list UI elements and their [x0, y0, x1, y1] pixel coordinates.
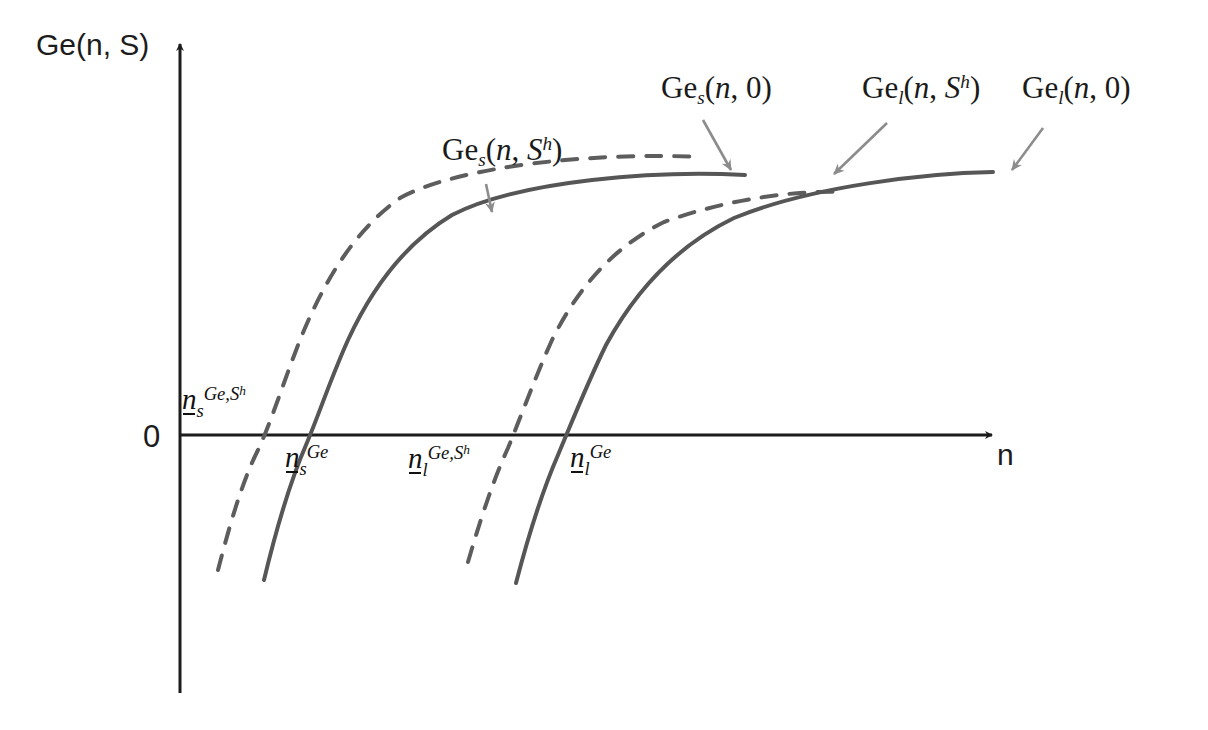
- threshold-label-n-s-ge-sh-sup-sup: h: [239, 383, 246, 398]
- threshold-label-n-l-ge-sh-sup-sup: h: [463, 442, 470, 457]
- curve-label-ge-s-sh-base: Ge: [442, 132, 478, 167]
- curve-label-ge-l-sh-open: (: [904, 70, 914, 105]
- threshold-label-n-s-ge: nsGe: [285, 443, 328, 478]
- arrow-ge-l-sh: [834, 123, 887, 174]
- curve-label-ge-l-sh-close: ): [970, 70, 980, 105]
- curve-label-ge-l-sh-arg2: S: [945, 70, 961, 105]
- curve-label-ge-s-sh-arg2-sup: h: [542, 133, 552, 154]
- curve-ge-l-0: [516, 172, 993, 583]
- figure-canvas: Ge(n, S) n 0 Ges(n, Sh) Ges(n, 0) Gel(n,…: [0, 0, 1208, 730]
- curve-label-ge-s-0-sub: s: [697, 87, 704, 108]
- threshold-label-n-l-ge-sh-base: n: [408, 444, 423, 473]
- threshold-label-n-s-ge-base: n: [285, 443, 300, 472]
- x-axis-label: n: [997, 440, 1014, 470]
- curve-label-ge-s-0-base: Ge: [661, 70, 697, 105]
- curve-label-ge-s-sh-comma: ,: [511, 132, 527, 167]
- plot-svg: [0, 0, 1208, 730]
- threshold-label-n-l-ge-sh-sup-text: Ge,S: [428, 442, 464, 463]
- curve-label-ge-s-0-arg1: n: [715, 70, 731, 105]
- curve-label-ge-s-sh-open: (: [486, 132, 496, 167]
- threshold-label-n-s-ge-sup: Ge: [307, 441, 329, 462]
- threshold-label-n-l-ge: nlGe: [570, 443, 611, 478]
- curve-label-ge-s-sh: Ges(n, Sh): [442, 134, 562, 169]
- curve-label-ge-l-0-base: Ge: [1022, 70, 1058, 105]
- curve-label-ge-s-sh-close: ): [552, 132, 562, 167]
- curve-label-ge-l-sh-comma: ,: [929, 70, 945, 105]
- curve-label-ge-l-0-arg1: n: [1074, 70, 1090, 105]
- curve-label-ge-s-0-arg2: 0: [746, 70, 762, 105]
- curve-ge-s-sh: [218, 156, 700, 570]
- curve-label-ge-l-sh-arg1: n: [914, 70, 930, 105]
- threshold-label-n-l-ge-sup: Ge: [590, 441, 612, 462]
- curve-label-ge-l-sh-base: Ge: [862, 70, 898, 105]
- curve-label-ge-s-0-close: ): [761, 70, 771, 105]
- arrow-ge-s-0: [703, 120, 731, 170]
- threshold-label-n-s-ge-sh-sup: Ge,Sh: [204, 383, 246, 404]
- curve-label-ge-l-sh-arg2-sup: h: [960, 71, 970, 92]
- threshold-label-n-s-ge-sub: s: [300, 458, 307, 479]
- curve-label-ge-l-0-close: ): [1120, 70, 1130, 105]
- curve-label-ge-l-0-arg2: 0: [1105, 70, 1121, 105]
- curve-label-ge-s-sh-arg2: S: [527, 132, 543, 167]
- curve-label-ge-s-0: Ges(n, 0): [661, 72, 772, 107]
- curve-label-ge-s-sh-sub: s: [478, 149, 485, 170]
- curve-label-ge-s-0-comma: ,: [730, 70, 746, 105]
- curve-label-ge-l-0: Gel(n, 0): [1022, 72, 1131, 107]
- y-axis-label: Ge(n, S): [36, 30, 149, 60]
- curve-label-ge-s-sh-arg1: n: [496, 132, 512, 167]
- curve-label-ge-s-0-open: (: [705, 70, 715, 105]
- threshold-label-n-s-ge-sh-sub: s: [197, 400, 204, 421]
- threshold-label-n-s-ge-sh-base: n: [182, 385, 197, 414]
- curve-label-ge-l-0-open: (: [1064, 70, 1074, 105]
- threshold-label-n-s-ge-sh-sup-text: Ge,S: [204, 383, 240, 404]
- threshold-label-n-s-ge-sh: nsGe,Sh: [182, 384, 246, 421]
- curve-ge-l-sh: [468, 192, 845, 562]
- curve-label-ge-l-sh: Gel(n, Sh): [862, 72, 980, 107]
- arrow-ge-l-0: [1012, 128, 1043, 170]
- curve-label-ge-l-0-comma: ,: [1089, 70, 1105, 105]
- origin-label: 0: [143, 421, 160, 452]
- threshold-label-n-l-ge-sh: nlGe,Sh: [408, 443, 470, 480]
- threshold-label-n-l-ge-base: n: [570, 443, 585, 472]
- curve-ge-s-0: [264, 174, 745, 580]
- threshold-label-n-l-ge-sh-sup: Ge,Sh: [428, 442, 470, 463]
